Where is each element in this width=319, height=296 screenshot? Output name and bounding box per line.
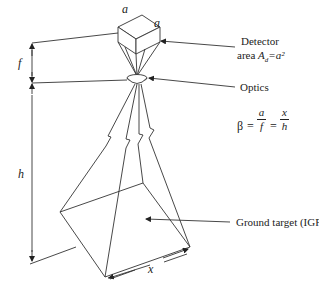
fraction-a-numerator: a bbox=[258, 107, 266, 118]
ground-width-label: x bbox=[148, 263, 153, 275]
height-label: h bbox=[18, 168, 24, 180]
equals-sign-2: = bbox=[270, 119, 277, 134]
detector-label: Detector bbox=[241, 36, 279, 47]
fraction-x-over-h: x h bbox=[280, 107, 289, 132]
detector-side-a-top-label: a bbox=[122, 3, 128, 15]
ground-target-label: Ground target (IGFOV) bbox=[236, 217, 319, 228]
fraction-f-denominator: f bbox=[260, 121, 263, 132]
optics-label: Optics bbox=[240, 82, 269, 93]
fraction-a-over-f: a f bbox=[257, 107, 266, 132]
equals-sign-1: = bbox=[247, 119, 254, 134]
fraction-h-denominator: h bbox=[282, 121, 288, 132]
beta-symbol: β bbox=[237, 119, 243, 134]
igfov-diagram: a a Detector area Ad=a² Optics f h x Gro… bbox=[0, 0, 319, 296]
detector-area-suffix: =a² bbox=[268, 49, 284, 61]
fraction-x-numerator: x bbox=[281, 107, 288, 118]
detector-side-a-right-label: a bbox=[154, 17, 160, 29]
optics-lens-icon bbox=[127, 75, 147, 84]
detector-area-symbol: A bbox=[258, 49, 265, 61]
detector-area-prefix: area bbox=[237, 49, 258, 61]
ground-target-shape bbox=[60, 183, 190, 277]
detector-area-label: area Ad=a² bbox=[237, 50, 285, 64]
focal-length-label: f bbox=[18, 57, 21, 69]
